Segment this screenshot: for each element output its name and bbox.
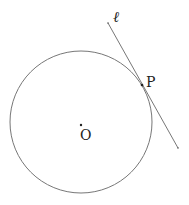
center-label: O bbox=[80, 127, 91, 143]
line-label: ℓ bbox=[113, 8, 119, 26]
circle bbox=[10, 51, 152, 193]
diagram-canvas: ℓ P O bbox=[0, 0, 189, 205]
line-endpoint-top bbox=[107, 22, 109, 24]
point-p-label: P bbox=[146, 74, 155, 90]
line-endpoint-bottom bbox=[177, 147, 179, 149]
center-point-o bbox=[80, 124, 82, 126]
point-p bbox=[141, 84, 144, 87]
